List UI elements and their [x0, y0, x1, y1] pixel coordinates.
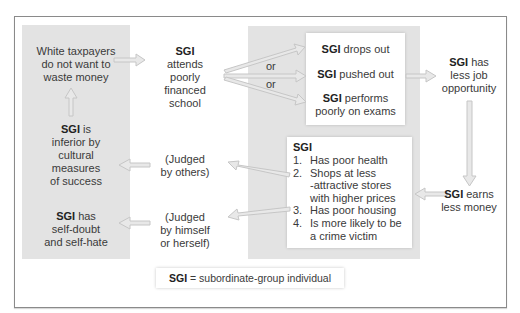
- node-taxpayers: White taxpayers do not want to waste mon…: [24, 45, 128, 84]
- text-line: of success: [24, 175, 128, 188]
- text-line: -attractive stores: [310, 179, 411, 192]
- text-line: financed: [155, 84, 215, 97]
- node-drops-out: SGI drops out: [306, 43, 405, 56]
- legend-text: = subordinate-group individual: [187, 272, 331, 284]
- text-line: SGI performs: [306, 92, 405, 105]
- node-job: SGI has less job opportunity: [437, 56, 501, 95]
- text: has: [75, 210, 96, 222]
- sgi-label: SGI: [293, 141, 312, 153]
- text-line: or herself): [150, 237, 220, 250]
- arrow-down-icon: [463, 101, 476, 186]
- node-judged-self: (Judged by himself or herself): [150, 211, 220, 250]
- sgi-label: SGI: [322, 43, 341, 55]
- text-line: by himself: [150, 224, 220, 237]
- text-line: SGI has: [24, 210, 128, 223]
- text: has: [468, 56, 489, 68]
- sgi-label: SGI: [449, 56, 468, 68]
- text-line: SGI has: [437, 56, 501, 69]
- text-line: school: [155, 97, 215, 110]
- node-consequences: SGI 1.Has poor health 2.Shops at less-at…: [293, 141, 411, 242]
- text-line: attends: [155, 58, 215, 71]
- node-pushed-out: SGI pushed out: [306, 68, 405, 81]
- consequences-title: SGI: [293, 141, 411, 154]
- text-line: waste money: [24, 71, 128, 84]
- node-performs: SGI performs poorly on exams: [306, 92, 405, 118]
- text-line: poorly on exams: [306, 105, 405, 118]
- text-line: Is more likely to be: [310, 217, 411, 230]
- arrow-right-icon: [406, 70, 436, 82]
- or-label: or: [266, 60, 276, 73]
- node-judged-others: (Judged by others): [150, 153, 220, 179]
- sgi-label: SGI: [176, 45, 195, 57]
- or-label: or: [266, 78, 276, 91]
- item-number: 4.: [293, 217, 302, 230]
- text-line: opportunity: [437, 82, 501, 95]
- arrow-right-icon: [224, 77, 306, 105]
- arrow-left-icon: [228, 161, 290, 177]
- node-earns: SGI earns less money: [437, 188, 501, 214]
- text-line: inferior by: [24, 136, 128, 149]
- text-line: with higher prices: [310, 192, 411, 205]
- text: performs: [342, 92, 388, 104]
- sgi-label: SGI: [323, 92, 342, 104]
- text-line: SGI is: [24, 123, 128, 136]
- legend-box: SGI = subordinate-group individual: [156, 268, 344, 288]
- list-item: 3.Has poor housing: [293, 204, 411, 217]
- text-line: Has poor health: [310, 154, 388, 166]
- text-line: self-doubt: [24, 223, 128, 236]
- text-line: White taxpayers: [24, 45, 128, 58]
- text-line: less money: [437, 201, 501, 214]
- text: pushed out: [336, 68, 394, 80]
- list-item: 4.Is more likely to bea crime victim: [293, 217, 411, 242]
- text-line: cultural: [24, 149, 128, 162]
- text-line: measures: [24, 162, 128, 175]
- text-line: (Judged: [150, 211, 220, 224]
- sgi-label: SGI: [61, 123, 80, 135]
- text-line: SGI: [155, 45, 215, 58]
- text-line: SGI earns: [437, 188, 501, 201]
- node-self-doubt: SGI has self-doubt and self-hate: [24, 210, 128, 249]
- text: drops out: [341, 43, 390, 55]
- list-item: 1.Has poor health: [293, 154, 411, 167]
- text-line: Has poor housing: [310, 204, 396, 216]
- sgi-label: SGI: [169, 272, 187, 284]
- node-inferior: SGI is inferior by cultural measures of …: [24, 123, 128, 188]
- text-line: (Judged: [150, 153, 220, 166]
- item-number: 3.: [293, 204, 302, 217]
- text-line: Shops at less: [310, 167, 411, 180]
- text: earns: [463, 188, 494, 200]
- text-line: by others): [150, 166, 220, 179]
- sgi-label: SGI: [56, 210, 75, 222]
- sgi-label: SGI: [317, 68, 336, 80]
- text-line: and self-hate: [24, 236, 128, 249]
- item-number: 1.: [293, 154, 302, 167]
- consequences-list: 1.Has poor health 2.Shops at less-attrac…: [293, 154, 411, 242]
- text-line: poorly: [155, 71, 215, 84]
- arrow-right-icon: [224, 44, 305, 73]
- list-item: 2.Shops at less-attractive storeswith hi…: [293, 167, 411, 205]
- text: is: [80, 123, 91, 135]
- text-line: do not want to: [24, 58, 128, 71]
- arrow-left-icon: [228, 207, 290, 220]
- text-line: less job: [437, 69, 501, 82]
- item-number: 2.: [293, 167, 302, 180]
- node-school: SGI attends poorly financed school: [155, 45, 215, 110]
- arrow-up-icon: [65, 88, 77, 116]
- text-line: a crime victim: [310, 230, 411, 243]
- sgi-label: SGI: [444, 188, 463, 200]
